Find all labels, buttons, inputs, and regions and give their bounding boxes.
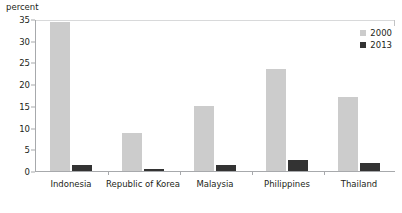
legend-label: 2013: [370, 40, 392, 50]
y-axis-tick-label: 15: [19, 102, 30, 112]
bar-2013-thailand: [360, 163, 380, 171]
bar-group: [252, 20, 324, 171]
x-axis-separator: [108, 171, 109, 175]
bar-2013-indonesia: [72, 165, 92, 172]
legend-swatch-icon: [360, 30, 366, 36]
bar-2000-indonesia: [50, 22, 70, 171]
y-axis-tick-mark: [31, 150, 35, 151]
bar-2013-republic-of-korea: [144, 169, 164, 171]
x-axis-separator: [252, 171, 253, 175]
y-axis-tick-label: 20: [19, 80, 30, 90]
bar-2000-philippines: [266, 69, 286, 171]
bar-chart: percent IndonesiaRepublic of KoreaMalays…: [0, 0, 402, 213]
bar-2013-philippines: [288, 160, 308, 171]
y-axis-tick-mark: [31, 63, 35, 64]
y-axis-tick-label: 25: [19, 58, 30, 68]
y-axis-tick-mark: [31, 128, 35, 129]
legend-label: 2000: [370, 28, 392, 38]
bar-2013-malaysia: [216, 165, 236, 171]
bar-group: [180, 20, 252, 171]
legend-item: 2013: [360, 40, 392, 50]
plot-area: [35, 20, 395, 172]
y-axis-unit-label: percent: [6, 2, 39, 13]
bars-layer: [36, 20, 395, 171]
x-axis-label: Republic of Korea: [106, 178, 180, 190]
y-axis-tick-mark: [31, 106, 35, 107]
y-axis-tick-label: 0: [25, 167, 30, 177]
x-axis-label: Thailand: [341, 178, 378, 190]
legend-swatch-icon: [360, 42, 366, 48]
x-axis-label: Indonesia: [50, 178, 91, 190]
bar-2000-republic-of-korea: [122, 133, 142, 171]
y-axis-tick-label: 10: [19, 124, 30, 134]
y-axis-tick-label: 35: [19, 15, 30, 25]
legend-item: 2000: [360, 28, 392, 38]
bar-group: [36, 20, 108, 171]
x-axis-separator: [180, 171, 181, 175]
bar-group: [108, 20, 180, 171]
x-axis-label: Malaysia: [196, 178, 233, 190]
bar-2000-malaysia: [194, 106, 214, 171]
x-axis-separator: [324, 171, 325, 175]
y-axis-tick-mark: [31, 172, 35, 173]
y-axis-tick-label: 5: [25, 145, 30, 155]
x-axis-labels: IndonesiaRepublic of KoreaMalaysiaPhilip…: [35, 178, 395, 198]
bar-2000-thailand: [338, 97, 358, 171]
y-axis-tick-mark: [31, 41, 35, 42]
y-axis-tick-label: 30: [19, 37, 30, 47]
y-axis-tick-mark: [31, 85, 35, 86]
chart-legend: 20002013: [360, 28, 392, 50]
y-axis-tick-mark: [31, 20, 35, 21]
x-axis-label: Philippines: [264, 178, 310, 190]
